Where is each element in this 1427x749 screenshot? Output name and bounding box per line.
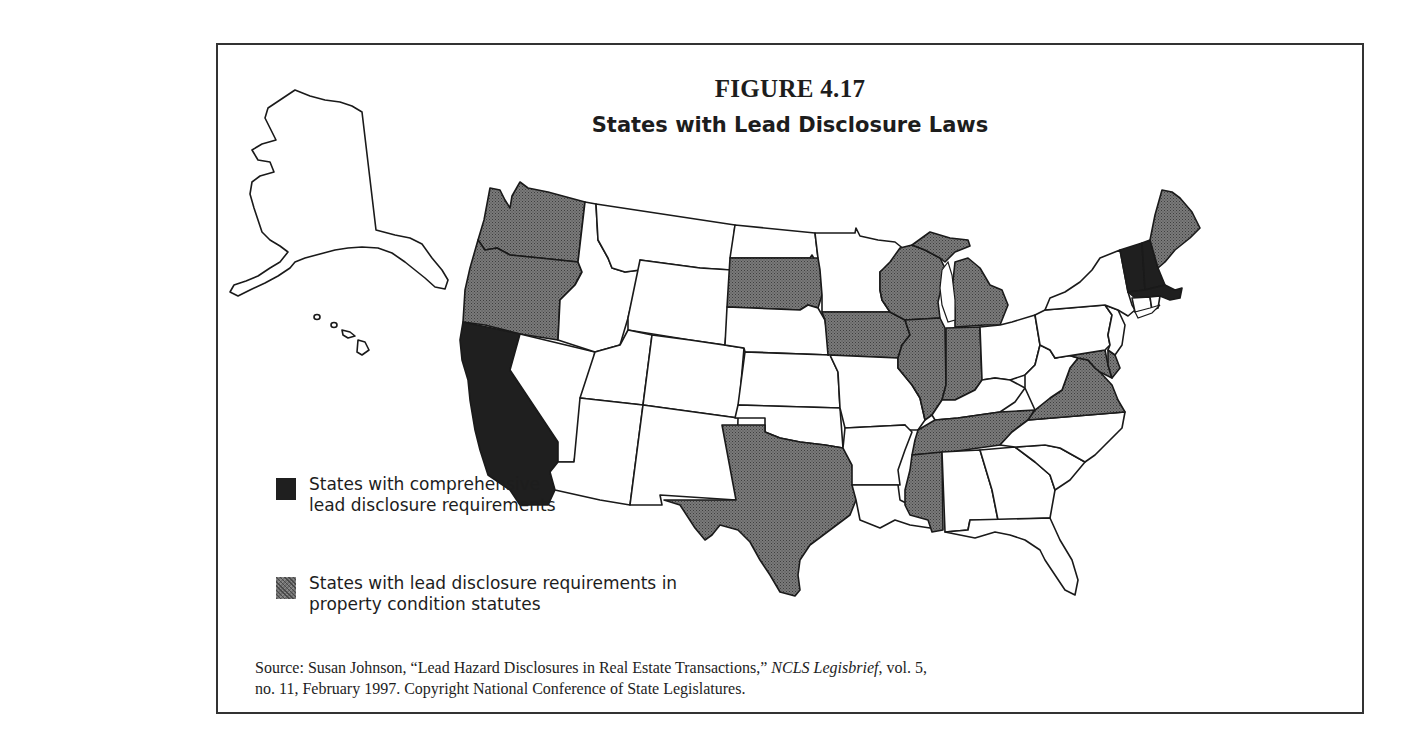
legend-label-line1: States with lead disclosure requirements… <box>309 573 677 593</box>
state-wyoming <box>628 260 732 345</box>
source-prefix: Source: Susan Johnson, “Lead Hazard Disc… <box>255 659 771 676</box>
state-arkansas <box>843 425 912 485</box>
source-suffix: , vol. 5, <box>878 659 926 676</box>
state-nebraska <box>725 305 830 355</box>
state-montana <box>596 204 735 272</box>
state-iowa <box>822 312 910 358</box>
state-kansas <box>738 352 840 408</box>
state-hawaii-kauai <box>314 315 320 320</box>
state-hawaii-big-island <box>357 340 369 355</box>
us-map <box>0 0 1427 749</box>
state-hawaii-oahu <box>331 323 337 328</box>
source-citation: Source: Susan Johnson, “Lead Hazard Disc… <box>255 657 927 699</box>
legend-swatch-solid-icon <box>276 478 296 500</box>
legend-item-comprehensive: States with comprehensive lead disclosur… <box>276 474 556 516</box>
state-michigan-lower <box>952 258 1008 327</box>
state-alaska <box>230 90 448 296</box>
state-colorado <box>643 335 744 418</box>
legend-label-line2: lead disclosure requirements <box>309 495 556 515</box>
state-maine <box>1150 190 1200 268</box>
lake-michigan <box>940 262 955 322</box>
state-florida <box>945 518 1078 595</box>
legend-swatch-stippled-icon <box>276 577 296 599</box>
legend-label: States with lead disclosure requirements… <box>309 573 677 615</box>
state-new-mexico <box>630 405 738 505</box>
legend-label-line1: States with comprehensive <box>309 474 540 494</box>
source-line2: no. 11, February 1997. Copyright Nationa… <box>255 680 745 697</box>
legend-item-property-condition: States with lead disclosure requirements… <box>276 573 677 615</box>
source-publication: NCLS Legisbrief <box>771 659 878 676</box>
legend-label-line2: property condition statutes <box>309 594 541 614</box>
legend-label: States with comprehensive lead disclosur… <box>309 474 556 516</box>
state-south-dakota <box>727 258 822 310</box>
state-hawaii-maui <box>342 330 355 338</box>
